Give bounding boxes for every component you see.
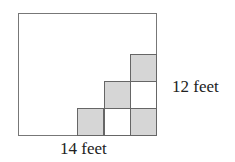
height-label: 12 feet bbox=[172, 77, 219, 97]
width-label: 14 feet bbox=[60, 139, 107, 159]
square-shaded bbox=[104, 81, 131, 109]
square-empty bbox=[104, 108, 131, 136]
square-empty bbox=[130, 81, 157, 109]
square-shaded bbox=[77, 108, 104, 136]
square-shaded bbox=[130, 54, 157, 82]
square-shaded bbox=[130, 108, 157, 136]
